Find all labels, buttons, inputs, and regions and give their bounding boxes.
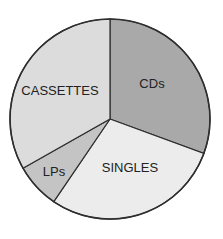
pie-chart: CDs SINGLES LPs CASSETTES [0,0,223,239]
slice-label-cds: CDs [139,76,165,91]
slice-label-singles: SINGLES [102,160,159,175]
slice-label-cassettes: CASSETTES [21,83,99,98]
pie-slices [10,19,210,219]
slice-label-lps: LPs [43,164,66,179]
